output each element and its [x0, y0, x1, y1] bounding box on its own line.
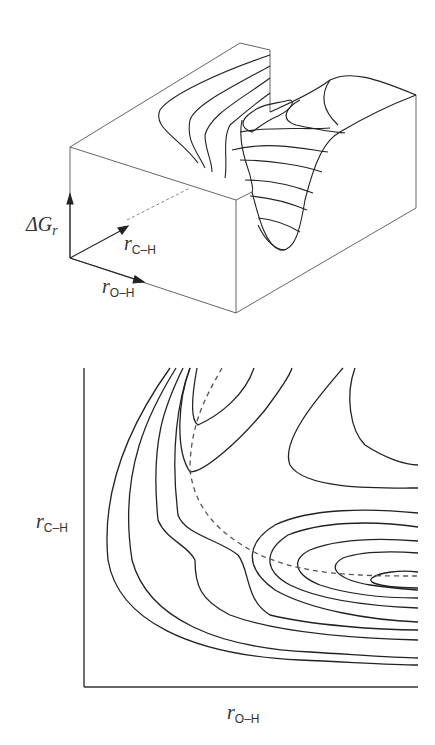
reaction-path-dashed: [190, 368, 418, 576]
contour-well: [252, 510, 418, 622]
r-ch-label-3d: rC–H: [124, 232, 156, 255]
figure-canvas: [0, 0, 435, 745]
contour-axes: [84, 368, 418, 687]
contour-upper: [180, 368, 292, 472]
arrow-right-icon: [133, 276, 144, 283]
surface-box: [70, 43, 416, 313]
r-oh-label-3d: rO–H: [102, 275, 134, 298]
arrow-up-icon: [67, 194, 73, 204]
surface-contours: [159, 55, 416, 250]
r-oh-label-contour: rO–H: [227, 701, 259, 724]
hidden-axis-dashed: [127, 188, 190, 220]
delta-g-label: ΔGr: [26, 213, 58, 236]
contour-right-saddle: [288, 368, 418, 488]
r-ch-label-contour: rC–H: [36, 510, 68, 533]
